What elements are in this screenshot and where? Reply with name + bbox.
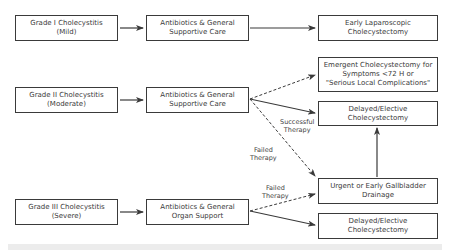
treatment-3-box: Antibiotics & General Organ Support <box>146 199 249 225</box>
treatment-2-box: Antibiotics & General Supportive Care <box>146 87 249 113</box>
grade-1-line-2: (Mild) <box>57 28 77 37</box>
treatment-3-line-1: Antibiotics & General <box>160 203 234 212</box>
delayed-2-line-2: Cholecystectomy <box>348 226 408 235</box>
failed-therapy-severe-label: Failed Therapy <box>262 184 289 200</box>
successful-label-line-2: Therapy <box>280 126 314 134</box>
grade-3-box: Grade III Cholecystitis (Severe) <box>15 199 118 225</box>
grade-1-box: Grade I Cholecystitis (Mild) <box>15 15 118 41</box>
grade-1-line-1: Grade I Cholecystitis <box>30 19 102 28</box>
failed-therapy-moderate-label: Failed Therapy <box>250 146 277 162</box>
treatment-1-line-1: Antibiotics & General <box>160 19 234 28</box>
delayed-1-line-1: Delayed/Elective <box>349 105 408 114</box>
emergent-line-2: Symptoms <72 H or <box>342 70 413 79</box>
urgent-line-2: Drainage <box>362 191 394 200</box>
failed-moderate-line-1: Failed <box>250 146 277 154</box>
treatment-2-line-2: Supportive Care <box>169 100 226 109</box>
delayed-elective-box-1: Delayed/Elective Cholecystectomy <box>318 101 438 126</box>
emergent-line-1: Emergent Cholecystectomy for <box>324 61 433 70</box>
grade-2-line-2: (Moderate) <box>47 100 86 109</box>
early-lap-line-1: Early Laparoscopic <box>345 19 411 28</box>
successful-label-line-1: Successful <box>280 118 314 126</box>
grade-2-box: Grade II Cholecystitis (Moderate) <box>15 87 118 113</box>
treatment-2-line-1: Antibiotics & General <box>160 91 234 100</box>
emergent-cholecystectomy-box: Emergent Cholecystectomy for Symptoms <7… <box>318 57 438 92</box>
treatment-1-line-2: Supportive Care <box>169 28 226 37</box>
urgent-line-1: Urgent or Early Gallbladder <box>330 182 426 191</box>
failed-moderate-line-2: Therapy <box>250 154 277 162</box>
treatment-1-box: Antibiotics & General Supportive Care <box>146 15 249 41</box>
grade-3-line-1: Grade III Cholecystitis <box>28 203 105 212</box>
emergent-line-3: "Serious Local Complications" <box>326 79 431 88</box>
delayed-elective-box-2: Delayed/Elective Cholecystectomy <box>318 213 438 239</box>
grade-3-line-2: (Severe) <box>52 212 82 221</box>
grade-2-line-1: Grade II Cholecystitis <box>29 91 103 100</box>
early-laparoscopic-box: Early Laparoscopic Cholecystectomy <box>318 15 438 41</box>
failed-severe-line-1: Failed <box>262 184 289 192</box>
treatment-3-line-2: Organ Support <box>172 212 223 221</box>
failed-severe-line-2: Therapy <box>262 192 289 200</box>
early-lap-line-2: Cholecystectomy <box>348 28 408 37</box>
successful-therapy-label: Successful Therapy <box>280 118 314 134</box>
delayed-1-line-2: Cholecystectomy <box>348 114 408 123</box>
delayed-2-line-1: Delayed/Elective <box>349 217 408 226</box>
urgent-drainage-box: Urgent or Early Gallbladder Drainage <box>318 178 438 204</box>
footer-band <box>8 244 442 250</box>
